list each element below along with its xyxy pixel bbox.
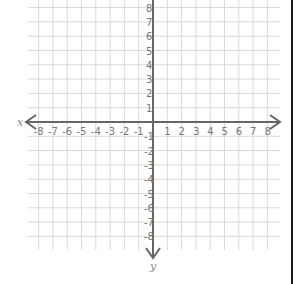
x-axis-label: x xyxy=(17,116,24,129)
x-tick-label: -1 xyxy=(134,126,144,137)
x-tick-label: 6 xyxy=(236,126,242,137)
x-tick-label: -3 xyxy=(105,126,115,137)
y-tick-label: 7 xyxy=(146,17,152,28)
x-tick-label: -6 xyxy=(62,126,72,137)
y-tick-label: -5 xyxy=(144,189,154,200)
y-tick-label: 2 xyxy=(146,88,152,99)
x-tick-label: 3 xyxy=(193,126,199,137)
y-tick-label: -3 xyxy=(144,160,154,171)
x-tick-label: -5 xyxy=(77,126,87,137)
y-tick-label: -4 xyxy=(144,174,154,185)
x-tick-label: 5 xyxy=(222,126,228,137)
x-tick-label: -4 xyxy=(91,126,101,137)
x-tick-label: -7 xyxy=(48,126,58,137)
x-tick-label: -8 xyxy=(34,126,44,137)
right-border xyxy=(291,0,293,284)
y-tick-label: 5 xyxy=(146,46,152,57)
y-axis-label: y xyxy=(149,260,157,273)
y-tick-label: -8 xyxy=(144,231,154,242)
y-tick-label: 8 xyxy=(146,3,152,14)
x-tick-label: 7 xyxy=(250,126,256,137)
x-tick-label: 2 xyxy=(179,126,185,137)
x-tick-label: 8 xyxy=(264,126,270,137)
y-tick-label: -1 xyxy=(144,131,154,142)
y-tick-label: -2 xyxy=(144,146,154,157)
x-tick-label: -2 xyxy=(119,126,129,137)
y-tick-label: -6 xyxy=(144,203,154,214)
coordinate-plane: -8-7-6-5-4-3-2-11234567887654321-1-2-3-4… xyxy=(0,0,296,284)
x-tick-label: 4 xyxy=(207,126,213,137)
y-tick-label: 4 xyxy=(146,60,152,71)
x-tick-label: 1 xyxy=(164,126,170,137)
y-tick-label: 3 xyxy=(146,74,152,85)
y-tick-label: 1 xyxy=(146,103,152,114)
y-tick-label: -7 xyxy=(144,217,154,228)
y-tick-label: 6 xyxy=(146,31,152,42)
